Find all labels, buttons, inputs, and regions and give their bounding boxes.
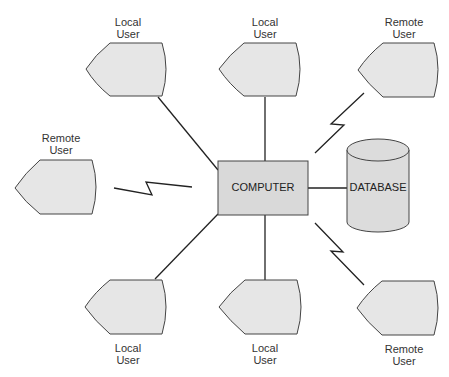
network-diagram: COMPUTER DATABASE LocalUser LocalUser Re… — [0, 0, 449, 377]
database-label: DATABASE — [346, 181, 410, 193]
terminal-mid-left-shape — [15, 160, 96, 214]
terminal-top-left-label: LocalUser — [93, 16, 163, 40]
terminal-bottom-center-shape — [219, 280, 301, 334]
terminal-top-right-label: RemoteUser — [369, 16, 439, 40]
terminal-bottom-left-label: LocalUser — [93, 342, 163, 366]
terminal-top-center-label: LocalUser — [230, 16, 300, 40]
terminal-bottom-right-shape — [357, 281, 438, 335]
terminal-top-right-shape — [358, 43, 438, 97]
computer-label: COMPUTER — [218, 181, 308, 193]
terminal-bottom-left-shape — [85, 280, 166, 334]
terminal-bottom-center-label: LocalUser — [230, 342, 300, 366]
terminal-bottom-right-label: RemoteUser — [369, 343, 439, 367]
terminal-top-center-shape — [219, 43, 300, 96]
terminal-top-left-shape — [86, 43, 166, 96]
terminal-mid-left-label: RemoteUser — [26, 132, 96, 156]
